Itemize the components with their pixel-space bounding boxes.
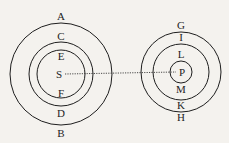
label-h: H	[177, 111, 185, 123]
label-i: I	[179, 31, 183, 43]
label-p: P	[179, 66, 185, 78]
label-k: K	[177, 99, 185, 111]
label-f: F	[58, 87, 64, 99]
dotted-connector-s-to-p	[65, 72, 176, 74]
label-m: M	[176, 83, 186, 95]
label-s: S	[56, 68, 62, 80]
label-a: A	[57, 10, 65, 22]
label-c: C	[57, 30, 64, 42]
label-d: D	[57, 107, 65, 119]
label-g: G	[177, 19, 185, 31]
concentric-circles-diagram: A C E S F D B G I L P M K H	[0, 0, 229, 143]
label-l: L	[178, 48, 185, 60]
label-e: E	[58, 50, 65, 62]
label-b: B	[57, 127, 64, 139]
